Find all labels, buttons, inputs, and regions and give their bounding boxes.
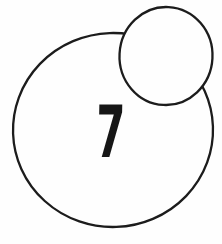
figure-canvas: 7 (0, 0, 222, 244)
circles-figure: 7 (0, 0, 222, 244)
figure-number: 7 (95, 90, 126, 174)
